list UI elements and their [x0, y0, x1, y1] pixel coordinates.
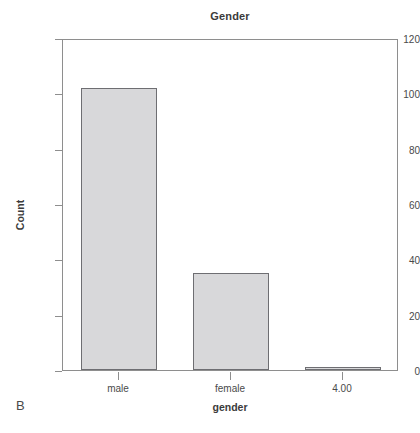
y-axis-tick	[55, 260, 62, 261]
x-axis-tick	[342, 372, 343, 380]
bars-layer	[63, 40, 397, 370]
figure-panel-b: Gender Count 020406080100120 malefemale4…	[0, 0, 420, 433]
plot-area	[62, 39, 398, 371]
y-axis-tick	[55, 94, 62, 95]
x-axis-tick	[118, 372, 119, 380]
y-axis-tick	[55, 371, 62, 372]
x-axis-tick	[230, 372, 231, 380]
x-axis-tick-label: male	[107, 383, 129, 394]
panel-label: B	[16, 398, 25, 413]
x-axis-tick-label: female	[215, 383, 245, 394]
bar	[81, 88, 157, 370]
chart-title: Gender	[62, 10, 398, 22]
y-axis-title: Count	[14, 200, 26, 230]
x-axis-tick-label: 4.00	[332, 383, 351, 394]
x-axis-title: gender	[62, 401, 398, 413]
bar	[305, 367, 381, 370]
y-axis-tick	[55, 150, 62, 151]
bar	[193, 273, 269, 370]
y-axis-tick	[55, 39, 62, 40]
y-axis-tick	[55, 205, 62, 206]
y-axis-tick	[55, 316, 62, 317]
